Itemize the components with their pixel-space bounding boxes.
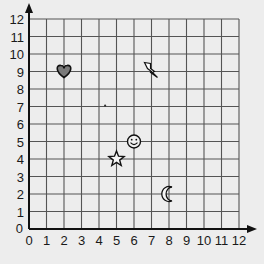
y-tick-label: 1 xyxy=(17,205,24,220)
smiley-icon xyxy=(128,135,141,148)
x-tick-label: 11 xyxy=(215,233,229,248)
x-tick-label: 8 xyxy=(165,233,172,248)
x-tick-label: 5 xyxy=(113,233,120,248)
coordinate-grid: 01234567891011121234567891011120 xyxy=(0,0,264,264)
y-tick-label: 5 xyxy=(17,135,24,150)
y-tick-label: 9 xyxy=(17,65,24,80)
x-axis-arrow-icon xyxy=(247,225,257,233)
y-tick-label: 4 xyxy=(17,152,24,167)
x-tick-label: 10 xyxy=(197,233,211,248)
y-tick-label: 7 xyxy=(17,100,24,115)
y-tick-label: 0 xyxy=(16,221,23,236)
x-tick-label: 12 xyxy=(232,233,246,248)
x-tick-label: 7 xyxy=(148,233,155,248)
y-tick-label: 12 xyxy=(10,12,24,27)
y-tick-label: 2 xyxy=(17,187,24,202)
y-tick-label: 8 xyxy=(17,82,24,97)
y-axis-arrow-icon xyxy=(25,3,33,13)
y-tick-label: 6 xyxy=(17,117,24,132)
x-tick-label: 9 xyxy=(183,233,190,248)
x-tick-label: 0 xyxy=(25,233,32,248)
x-tick-label: 2 xyxy=(60,233,67,248)
y-tick-label: 11 xyxy=(11,30,25,45)
stray-dot xyxy=(104,105,106,107)
x-tick-label: 1 xyxy=(43,233,50,248)
x-tick-label: 6 xyxy=(130,233,137,248)
x-tick-label: 3 xyxy=(78,233,85,248)
y-tick-label: 3 xyxy=(17,170,24,185)
y-tick-label: 10 xyxy=(10,47,24,62)
x-tick-label: 4 xyxy=(95,233,102,248)
heart-icon xyxy=(57,65,71,77)
